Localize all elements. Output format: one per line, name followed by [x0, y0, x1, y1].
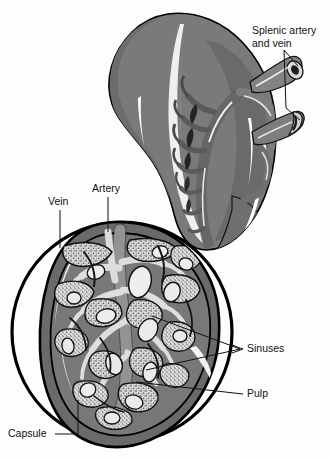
sinus-12	[173, 330, 187, 342]
pulp-island-15	[160, 364, 189, 388]
label-pulp: Pulp	[247, 387, 268, 399]
label-sinuses: Sinuses	[247, 342, 284, 354]
label-artery: Artery	[92, 182, 121, 194]
label-vein: Vein	[48, 195, 69, 207]
label-splenic-artery-line2: and vein	[252, 37, 292, 49]
label-capsule: Capsule	[8, 427, 47, 439]
spleen-diagram-svg: Splenic artery and vein Vein Artery Sinu…	[0, 0, 330, 459]
sinus-6	[67, 292, 81, 304]
spleen-figure: Splenic artery and vein Vein Artery Sinu…	[0, 0, 330, 459]
sinus-14	[104, 412, 120, 424]
label-splenic-artery-line1: Splenic artery	[252, 24, 317, 36]
